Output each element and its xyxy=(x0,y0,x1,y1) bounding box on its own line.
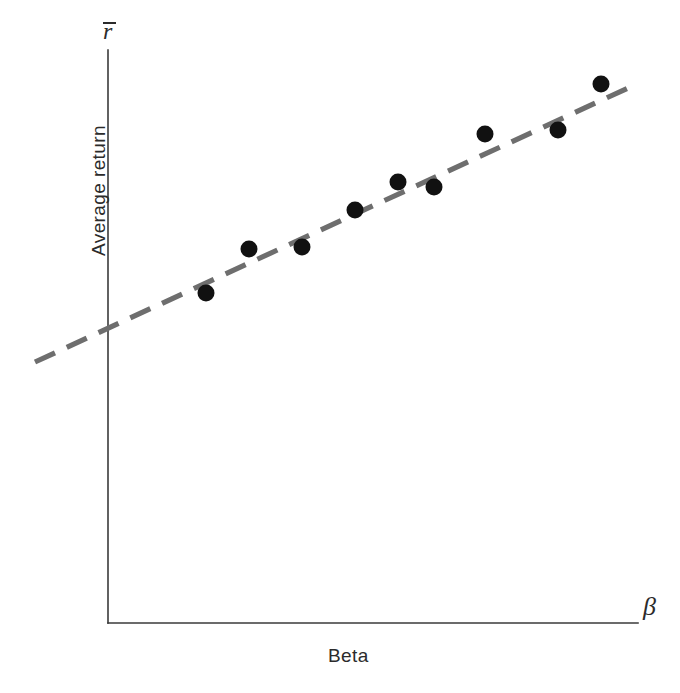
y-axis-title: Average return xyxy=(88,125,110,256)
data-point xyxy=(426,179,443,196)
fitted-regression-line xyxy=(35,88,628,362)
data-point xyxy=(198,285,215,302)
data-points-group xyxy=(198,76,610,302)
y-axis-symbol-overbar xyxy=(103,22,116,24)
data-point xyxy=(294,239,311,256)
data-point xyxy=(593,76,610,93)
data-point xyxy=(477,126,494,143)
data-point xyxy=(347,202,364,219)
data-point xyxy=(241,241,258,258)
data-point xyxy=(390,174,407,191)
x-axis-symbol: β xyxy=(643,592,656,622)
scatter-figure: r β Average return Beta xyxy=(0,0,680,693)
x-axis-title: Beta xyxy=(328,645,369,667)
plot-canvas xyxy=(0,0,680,693)
data-point xyxy=(550,122,567,139)
